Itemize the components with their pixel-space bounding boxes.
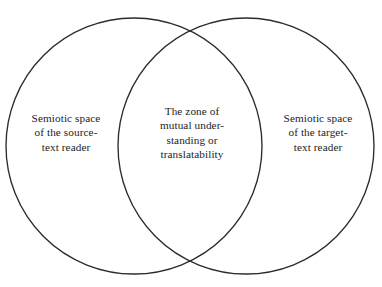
right-region-label: Semiotic space of the target- text reade… [266, 111, 370, 154]
left-region-label: Semiotic space of the source- text reade… [14, 111, 118, 154]
center-overlap-label: The zone of mutual under- standing or tr… [141, 104, 243, 162]
venn-diagram-figure: Semiotic space of the source- text reade… [0, 0, 382, 287]
